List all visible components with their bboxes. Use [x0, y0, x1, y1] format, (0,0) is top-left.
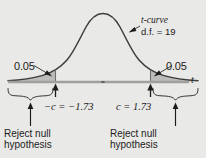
left-critical-value-label: −c = −1.73: [44, 101, 94, 113]
left-reject-null-line2: hypothesis: [4, 139, 52, 150]
left-alpha-leader-line: [34, 66, 48, 74]
left-tail-probability-label: 0.05: [14, 60, 35, 72]
right-reject-null-label: Reject null hypothesis: [110, 128, 158, 150]
left-reject-null-line1: Reject null: [4, 128, 52, 139]
left-rejection-brace: [8, 89, 53, 101]
right-reject-null-line1: Reject null: [110, 128, 158, 139]
curve-label-arrowhead: [129, 27, 137, 33]
t-axis-label: t: [191, 74, 194, 85]
right-rejection-brace: [153, 89, 198, 101]
left-reject-null-label: Reject null hypothesis: [4, 128, 52, 150]
curve-annotation: t-curve d.f. = 19: [141, 15, 176, 37]
curve-annotation-line2: d.f. = 19: [141, 27, 176, 38]
right-tail-probability-label: 0.05: [166, 60, 187, 72]
t-distribution-figure: 0.05 0.05 t-curve d.f. = 19 −c = −1.73 c…: [0, 0, 206, 158]
curve-annotation-line1: t-curve: [141, 15, 176, 26]
right-critical-value-label: c = 1.73: [116, 101, 151, 113]
right-reject-null-line2: hypothesis: [110, 139, 158, 150]
